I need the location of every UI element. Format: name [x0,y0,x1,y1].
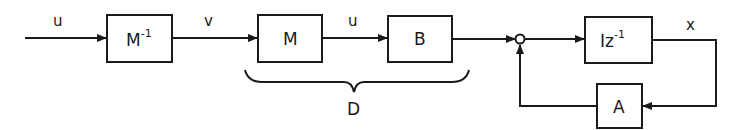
block-a-label: A [613,97,625,117]
block-b-label: B [414,29,426,49]
block-m-label: M [283,29,298,49]
group-label-d: D [347,99,360,119]
signal-label-u-input: u [53,12,63,30]
group-brace [245,70,469,92]
signal-label-u-mid: u [348,12,358,30]
feedback-path-to-a [643,40,716,106]
summing-junction [516,35,525,44]
signal-label-x: x [686,16,695,34]
block-diagram: u M-1 v M u B Iz-1 x A D [0,0,740,130]
signal-label-v: v [204,12,213,30]
